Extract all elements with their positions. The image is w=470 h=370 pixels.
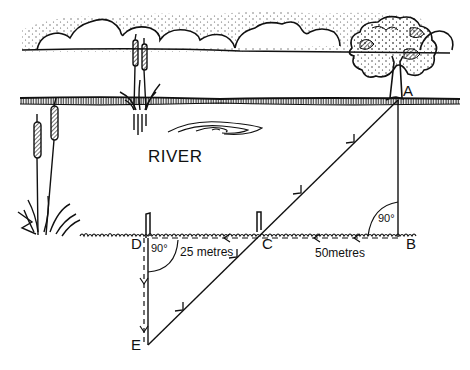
water-ripples	[168, 122, 262, 135]
distance-label-bc: 50metres	[315, 246, 365, 260]
point-label-b: B	[406, 235, 416, 252]
point-label-e: E	[131, 336, 141, 353]
bulrushes-icon	[18, 98, 80, 236]
distance-label-cd: 25 metres	[180, 245, 233, 259]
point-label-a: A	[403, 82, 413, 99]
river-width-diagram: RIVER 90° 90°	[0, 0, 470, 370]
sight-line-ea	[148, 100, 398, 345]
river-label: RIVER	[148, 147, 202, 166]
marker-posts	[146, 212, 261, 238]
tree-icon	[349, 17, 436, 100]
point-label-c: C	[262, 235, 273, 252]
angle-label-b: 90°	[378, 212, 395, 224]
angle-label-d: 90°	[151, 242, 168, 254]
point-label-d: D	[131, 235, 142, 252]
